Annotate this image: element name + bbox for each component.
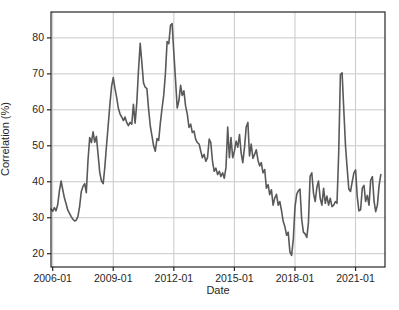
plot-border	[51, 12, 385, 267]
y-tick-label: 40	[32, 175, 44, 187]
y-axis-label: Correlation (%)	[0, 39, 11, 239]
y-tick-label: 20	[32, 247, 44, 259]
y-tick-label: 50	[32, 139, 44, 151]
y-tick-label: 60	[32, 103, 44, 115]
y-tick-label: 30	[32, 211, 44, 223]
x-tick-label: 2009-01	[94, 272, 133, 284]
data-line	[51, 24, 381, 256]
x-tick-label: 2006-01	[33, 272, 72, 284]
x-axis-label: Date	[51, 284, 385, 296]
x-tick-label: 2012-01	[155, 272, 194, 284]
x-tick-label: 2018-01	[276, 272, 315, 284]
x-tick-label: 2021-01	[336, 272, 375, 284]
y-tick-label: 70	[32, 67, 44, 79]
x-tick-label: 2015-01	[215, 272, 254, 284]
chart-canvas: 203040506070802006-012009-012012-012015-…	[0, 0, 399, 310]
y-tick-label: 80	[32, 31, 44, 43]
correlation-chart: 203040506070802006-012009-012012-012015-…	[0, 0, 399, 310]
